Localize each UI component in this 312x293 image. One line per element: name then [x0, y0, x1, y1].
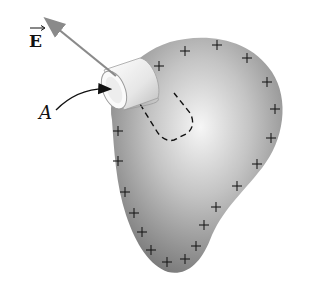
- gauss-law-figure: E A: [0, 0, 312, 293]
- area-pointer-arrow: [56, 89, 108, 110]
- area-label: A: [37, 102, 52, 123]
- electric-field-arrow: [52, 24, 116, 76]
- figure-svg: E A: [0, 0, 312, 293]
- field-label: E: [29, 31, 42, 51]
- field-label-group: E: [29, 26, 45, 52]
- gaussian-cylinder: [96, 56, 159, 113]
